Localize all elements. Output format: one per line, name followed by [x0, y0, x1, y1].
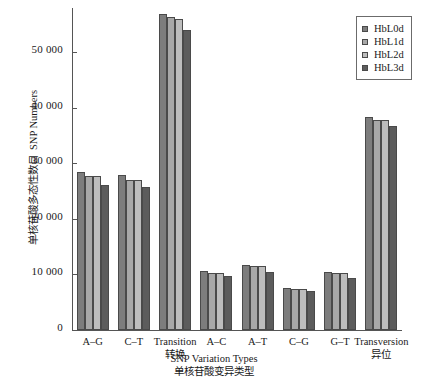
legend-item[interactable]: HbL0d — [362, 22, 404, 35]
legend-item[interactable]: HbL2d — [362, 48, 404, 61]
y-axis-tick-mark — [72, 330, 77, 331]
bar-group — [118, 8, 150, 330]
x-axis-line — [72, 330, 402, 331]
plot-area — [72, 8, 402, 330]
bar — [224, 276, 232, 330]
bar-group — [283, 8, 315, 330]
bar-group — [200, 8, 232, 330]
y-axis-title-cn: 单核苷酸多态性数目 — [27, 155, 39, 245]
legend-item-label: HbL3d — [374, 61, 404, 74]
bar — [118, 175, 126, 330]
bar — [340, 273, 348, 330]
bar — [348, 278, 356, 330]
bar — [101, 185, 109, 330]
legend-swatch-icon — [362, 39, 368, 45]
bar — [324, 272, 332, 330]
bar — [283, 288, 291, 330]
legend-item-label: HbL2d — [374, 48, 404, 61]
bar-group — [324, 8, 356, 330]
bar — [175, 19, 183, 330]
x-axis-title-cn: 单核苷酸变异类型 — [0, 365, 428, 378]
legend-swatch-icon — [362, 52, 368, 58]
chart-figure: 010 00020 00030 00040 00050 000 A–GC–TTr… — [0, 0, 428, 391]
bar — [216, 273, 224, 330]
x-axis-title-en: SNP Variation Types — [170, 353, 257, 364]
bar — [85, 176, 93, 330]
bar — [134, 180, 142, 330]
bar — [381, 120, 389, 330]
bar-group — [242, 8, 274, 330]
legend-item-label: HbL0d — [374, 22, 404, 35]
bar — [142, 187, 150, 330]
bar — [389, 126, 397, 330]
bar — [365, 117, 373, 330]
bar — [373, 120, 381, 330]
bar — [258, 266, 266, 330]
legend: HbL0dHbL1dHbL2dHbL3d — [356, 16, 412, 80]
legend-swatch-icon — [362, 65, 368, 71]
bar — [167, 17, 175, 330]
legend-item[interactable]: HbL1d — [362, 35, 404, 48]
bar — [242, 265, 250, 330]
bar — [307, 291, 315, 330]
bar — [77, 172, 85, 330]
bar — [93, 176, 101, 330]
bar — [266, 272, 274, 330]
bar — [183, 30, 191, 330]
bar — [250, 266, 258, 330]
legend-swatch-icon — [362, 26, 368, 32]
bar — [208, 273, 216, 330]
y-axis-title: 单核苷酸多态性数目SNP Numbers — [25, 18, 40, 318]
legend-item-label: HbL1d — [374, 35, 404, 48]
bar — [299, 289, 307, 330]
bar — [200, 271, 208, 330]
bar-group — [159, 8, 191, 330]
bar — [159, 14, 167, 330]
legend-item[interactable]: HbL3d — [362, 61, 404, 74]
x-axis-title: SNP Variation Types 单核苷酸变异类型 — [0, 352, 428, 378]
y-axis-title-en: SNP Numbers — [28, 90, 39, 150]
bar — [126, 180, 134, 330]
bar — [332, 273, 340, 330]
x-axis-tick-label-en: Transversion — [354, 336, 408, 347]
y-axis-tick-label: 0 — [57, 322, 63, 333]
bar-group — [77, 8, 109, 330]
bar — [291, 289, 299, 330]
